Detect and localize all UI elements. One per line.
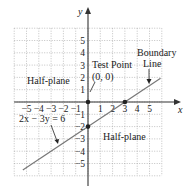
boundary-line-label: Line	[143, 58, 162, 69]
test-point-pointer	[90, 82, 95, 92]
boundary-line	[23, 78, 161, 170]
test-point-label: Test Point	[92, 59, 132, 70]
y-tick-label: 4	[80, 48, 85, 58]
boundary-line-group	[23, 78, 161, 170]
boundary-arrow-head	[147, 79, 152, 84]
y-intercept	[86, 124, 91, 129]
half-plane-upper-label: Half-plane	[27, 75, 70, 86]
y-tick-label: 1	[80, 85, 85, 95]
x-tick-label: 4	[135, 104, 140, 114]
y-tick-label: 5	[80, 36, 85, 46]
y-tick-label: 2	[80, 73, 85, 83]
y-tick-label: −4	[75, 147, 85, 157]
x-tick-label: 3	[123, 104, 128, 114]
boundary-label: Boundary	[137, 47, 176, 58]
test-point	[86, 100, 91, 105]
y-tick-label: −3	[75, 134, 85, 144]
equation-label: 2x − 3y = 6	[19, 113, 65, 124]
y-axis-arrowhead	[85, 7, 91, 14]
y-tick-label: −1	[75, 110, 85, 120]
x-intercept	[123, 100, 128, 105]
y-tick-label: 3	[80, 61, 85, 71]
equation-arrow-head	[55, 139, 60, 144]
coordinate-plane: xy −5−4−3−2−11234554321−1−2−3−4−5 Half-p…	[0, 0, 186, 188]
x-tick-label: 5	[147, 104, 152, 114]
x-axis-label: x	[177, 104, 183, 115]
y-tick-label: −5	[75, 159, 85, 169]
half-plane-lower-label: Half-plane	[103, 131, 146, 142]
y-axis-label: y	[77, 6, 83, 17]
x-tick-label: 1	[98, 104, 103, 114]
y-tick-label: −2	[75, 122, 85, 132]
test-point-coords-label: (0, 0)	[92, 71, 114, 83]
